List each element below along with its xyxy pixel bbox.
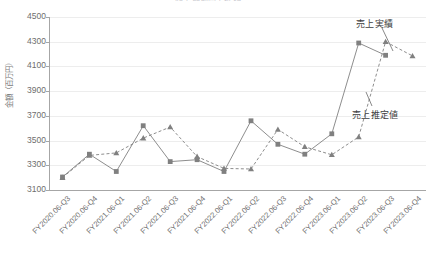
marker-square (302, 152, 307, 157)
series-layer (0, 0, 432, 260)
marker-triangle (167, 124, 173, 129)
marker-triangle (113, 150, 119, 155)
marker-triangle (410, 53, 416, 58)
marker-square (329, 131, 334, 136)
sales-trend-chart: 四半期別売上推移 金額（百万円） 31003300350037003900410… (0, 0, 432, 260)
series-line-actual (63, 43, 386, 177)
marker-square (249, 118, 254, 123)
marker-triangle (302, 144, 308, 149)
marker-square (141, 123, 146, 128)
marker-triangle (356, 134, 362, 139)
annotation-actual-series: 売上実績 (356, 17, 393, 30)
marker-square (114, 169, 119, 174)
marker-square (356, 41, 361, 46)
marker-triangle (275, 126, 281, 131)
annotation-estimate-series: 売上推定値 (352, 108, 399, 121)
marker-square (383, 53, 388, 58)
marker-triangle (140, 135, 146, 140)
marker-square (168, 159, 173, 164)
leader-line-actual (382, 28, 393, 51)
marker-square (276, 142, 281, 147)
